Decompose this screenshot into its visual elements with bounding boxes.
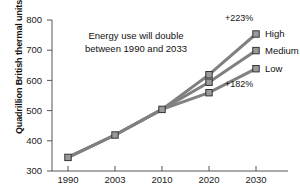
y-tick-label-500: 500 xyxy=(16,105,42,116)
energy-projection-chart: Quadrillion British thermal units 800 70… xyxy=(0,0,300,190)
y-tick-label-600: 600 xyxy=(16,75,42,86)
y-tick-label-800: 800 xyxy=(16,14,42,25)
data-point-marker xyxy=(206,90,212,96)
y-tick-label-300: 300 xyxy=(16,165,42,176)
series-label-low: Low xyxy=(265,63,282,74)
y-axis-ticks xyxy=(47,20,52,171)
series-label-medium: Medium xyxy=(265,45,299,56)
x-tick-label-1990: 1990 xyxy=(48,174,88,185)
data-point-marker xyxy=(206,72,212,78)
data-point-marker xyxy=(112,132,118,138)
chart-caption-line-1: Energy use will double xyxy=(88,30,183,41)
annotation-high-growth: +223% xyxy=(225,13,253,23)
chart-plot-area xyxy=(0,0,300,190)
y-tick-label-400: 400 xyxy=(16,135,42,146)
series-label-high: High xyxy=(265,28,285,39)
x-tick-label-2030: 2030 xyxy=(236,174,276,185)
x-tick-label-2010: 2010 xyxy=(142,174,182,185)
data-point-marker xyxy=(253,66,259,72)
y-tick-label-700: 700 xyxy=(16,44,42,55)
data-point-marker xyxy=(65,154,71,160)
x-tick-label-2003: 2003 xyxy=(95,174,135,185)
annotation-low-growth: +182% xyxy=(225,79,253,89)
data-point-marker xyxy=(206,79,212,85)
data-point-marker xyxy=(253,31,259,37)
series-line-medium xyxy=(68,51,256,158)
chart-caption-line-2: between 1990 and 2033 xyxy=(85,43,187,54)
data-point-marker xyxy=(253,47,259,53)
x-axis-ticks xyxy=(68,166,256,171)
data-point-marker xyxy=(159,106,165,112)
x-tick-label-2020: 2020 xyxy=(189,174,229,185)
chart-caption: Energy use will double between 1990 and … xyxy=(62,30,210,55)
